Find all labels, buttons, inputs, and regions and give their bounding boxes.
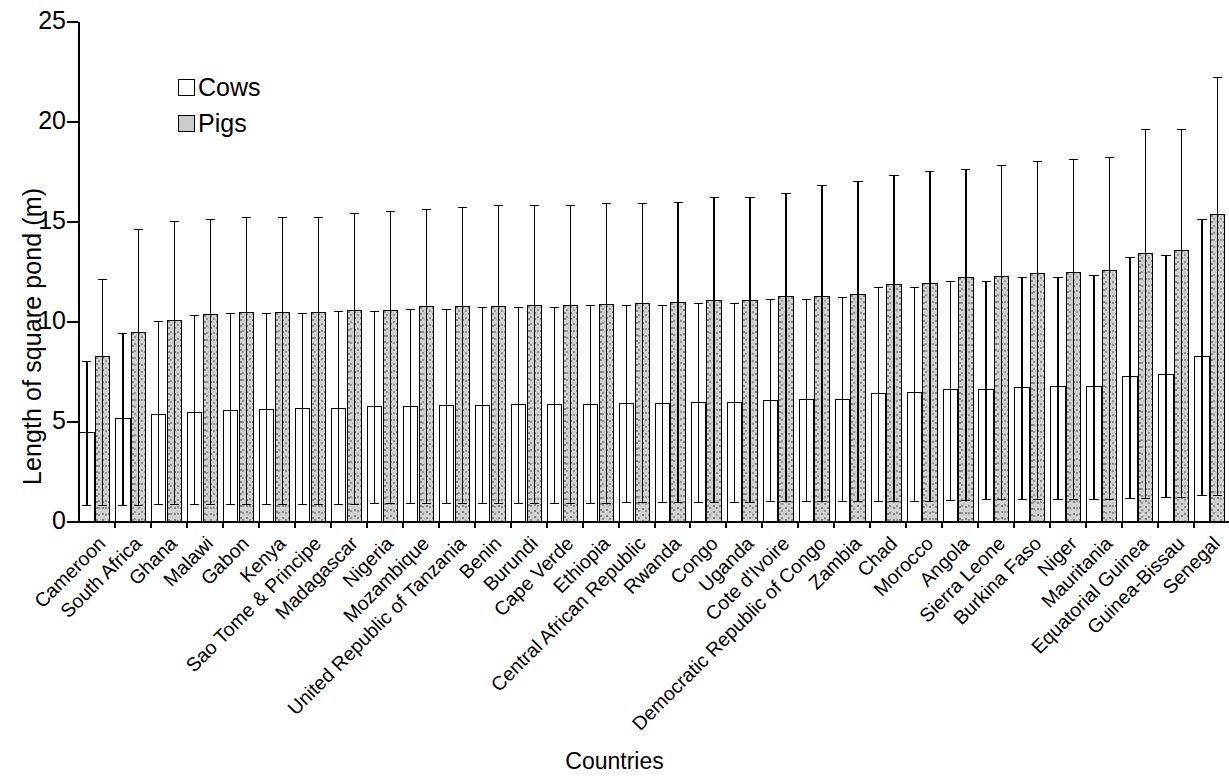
error-bar-pigs-24 (965, 170, 966, 501)
error-cap-upper-pigs-16 (674, 202, 683, 203)
error-cap-upper-cows-27 (1053, 277, 1062, 278)
x-tick-29 (1157, 521, 1159, 528)
error-bar-pigs-13 (570, 206, 571, 504)
x-tick-10 (474, 521, 476, 528)
error-cap-lower-pigs-7 (350, 504, 359, 505)
error-bar-cows-23 (914, 288, 915, 502)
error-bar-cows-14 (590, 306, 591, 504)
error-cap-lower-cows-17 (694, 502, 703, 503)
y-tick-label-5: 5 (0, 408, 66, 433)
error-cap-upper-pigs-2 (170, 221, 179, 222)
error-cap-lower-pigs-8 (386, 503, 395, 504)
x-tick-24 (977, 521, 979, 528)
error-cap-upper-cows-8 (370, 311, 379, 312)
x-label-26: Burkina Faso (948, 532, 1046, 630)
legend-label-cows: Cows (198, 75, 261, 100)
error-cap-upper-cows-21 (838, 297, 847, 298)
error-cap-lower-cows-20 (802, 501, 811, 502)
error-cap-upper-pigs-22 (889, 175, 898, 176)
error-bar-cows-25 (985, 282, 986, 500)
error-cap-lower-pigs-2 (170, 504, 179, 505)
x-tick-26 (1049, 521, 1051, 528)
x-tick-3 (222, 521, 224, 528)
error-bar-pigs-2 (174, 222, 175, 505)
error-cap-upper-pigs-19 (781, 193, 790, 194)
error-cap-upper-cows-4 (226, 313, 235, 314)
error-cap-lower-cows-12 (514, 503, 523, 504)
x-label-31: Senegal (1158, 532, 1225, 599)
x-label-23: Morocco (869, 532, 938, 601)
error-bar-cows-15 (626, 306, 627, 503)
error-bar-pigs-12 (534, 206, 535, 504)
error-cap-upper-pigs-26 (1033, 161, 1042, 162)
error-bar-pigs-25 (1001, 166, 1002, 500)
error-cap-lower-pigs-11 (494, 503, 503, 504)
legend-swatch-cows-icon (178, 79, 195, 96)
error-cap-upper-cows-11 (478, 307, 487, 308)
x-tick-20 (833, 521, 835, 528)
x-label-21: Zambia (804, 532, 866, 594)
y-tick-10 (67, 321, 78, 323)
error-cap-lower-pigs-14 (602, 503, 611, 504)
error-cap-upper-cows-6 (298, 313, 307, 314)
error-cap-lower-cows-28 (1089, 499, 1098, 500)
error-bar-cows-24 (950, 282, 951, 501)
x-label-13: Cape Verde (489, 532, 578, 621)
error-cap-upper-cows-19 (766, 299, 775, 300)
error-cap-lower-pigs-25 (997, 499, 1006, 500)
error-cap-lower-pigs-15 (638, 502, 647, 503)
error-bar-pigs-16 (677, 203, 678, 503)
error-cap-lower-pigs-18 (745, 502, 754, 503)
error-cap-upper-cows-30 (1161, 255, 1170, 256)
x-label-8: Nigeria (338, 532, 398, 592)
error-cap-upper-pigs-14 (602, 203, 611, 204)
error-bar-cows-12 (518, 308, 519, 504)
y-tick-label-15: 15 (0, 208, 66, 233)
error-bar-cows-5 (266, 314, 267, 505)
error-cap-lower-pigs-6 (314, 504, 323, 505)
error-cap-lower-cows-26 (1018, 499, 1027, 500)
error-cap-lower-pigs-19 (781, 501, 790, 502)
error-cap-upper-pigs-20 (817, 185, 826, 186)
error-cap-lower-cows-6 (298, 504, 307, 505)
error-cap-lower-cows-24 (946, 500, 955, 501)
x-tick-8 (402, 521, 404, 528)
x-tick-9 (438, 521, 440, 528)
error-cap-lower-cows-4 (226, 504, 235, 505)
error-cap-upper-cows-1 (118, 333, 127, 334)
error-cap-upper-cows-5 (262, 313, 271, 314)
error-cap-lower-pigs-16 (674, 502, 683, 503)
error-bar-pigs-28 (1109, 158, 1110, 500)
x-label-25: Sierra Leone (914, 532, 1009, 627)
x-tick-12 (546, 521, 548, 528)
error-cap-lower-cows-1 (118, 505, 127, 506)
error-cap-lower-pigs-12 (530, 503, 539, 504)
error-cap-lower-pigs-28 (1105, 499, 1114, 500)
error-cap-lower-cows-30 (1161, 497, 1170, 498)
error-cap-lower-pigs-27 (1069, 499, 1078, 500)
error-cap-upper-pigs-7 (350, 213, 359, 214)
error-cap-upper-cows-12 (514, 307, 523, 308)
error-bar-cows-16 (662, 306, 663, 503)
error-bar-pigs-15 (642, 204, 643, 503)
error-bar-pigs-5 (282, 218, 283, 505)
x-label-14: Ethiopia (549, 532, 615, 598)
y-tick-label-20: 20 (0, 108, 66, 133)
error-cap-lower-cows-8 (370, 503, 379, 504)
error-bar-cows-29 (1129, 258, 1130, 499)
x-tick-28 (1121, 521, 1123, 528)
x-tick-27 (1085, 521, 1087, 528)
error-cap-lower-pigs-29 (1141, 498, 1150, 499)
x-label-1: South Africa (56, 532, 147, 623)
error-bar-cows-26 (1021, 278, 1022, 500)
error-cap-lower-pigs-13 (566, 503, 575, 504)
x-label-0: Cameroon (30, 532, 111, 613)
error-cap-lower-cows-13 (550, 503, 559, 504)
error-bar-pigs-6 (318, 218, 319, 505)
x-tick-13 (582, 521, 584, 528)
error-bar-pigs-27 (1073, 160, 1074, 500)
error-cap-lower-cows-25 (982, 499, 991, 500)
error-cap-lower-cows-3 (190, 504, 199, 505)
chart-legend: Cows Pigs (178, 72, 261, 144)
x-label-29: Equatorial Guinea (1027, 532, 1154, 659)
